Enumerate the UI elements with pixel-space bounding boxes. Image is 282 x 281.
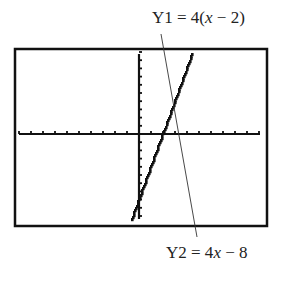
graph-line-y1-y2 — [131, 53, 194, 221]
y1-prefix: Y1 = 4( — [152, 8, 205, 27]
equation-label-y1: Y1 = 4(x − 2) — [152, 9, 245, 26]
y2-variable: x — [213, 243, 221, 262]
calculator-graph-screen — [0, 0, 282, 281]
leader-line — [161, 34, 197, 237]
y1-variable: x — [205, 8, 213, 27]
equation-label-y2: Y2 = 4x − 8 — [166, 244, 248, 261]
y2-suffix: − 8 — [221, 243, 248, 262]
y2-prefix: Y2 = 4 — [166, 243, 213, 262]
y1-suffix: − 2) — [213, 8, 245, 27]
